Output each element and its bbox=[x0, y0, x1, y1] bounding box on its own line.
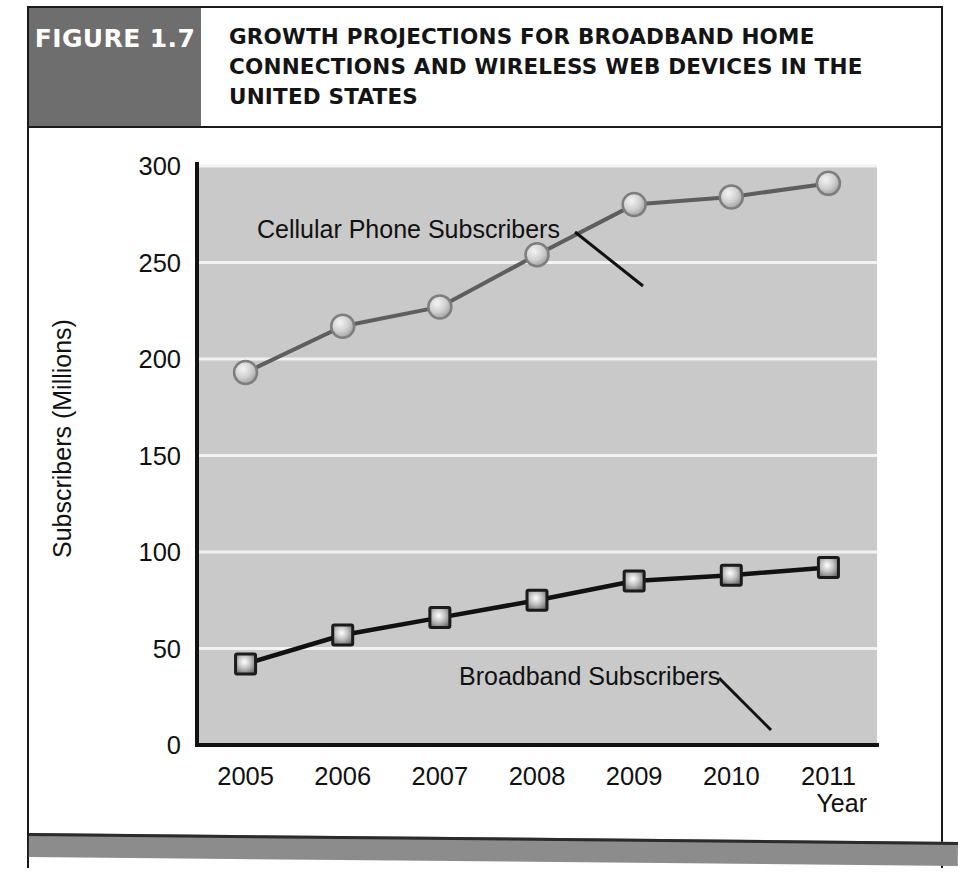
y-tick-label: 250 bbox=[138, 249, 181, 277]
x-axis-ticks: 2005200620072008200920102011 bbox=[217, 762, 856, 790]
x-tick-label: 2008 bbox=[509, 762, 566, 790]
x-axis-title: Year bbox=[816, 789, 867, 817]
data-point-circle bbox=[331, 315, 354, 338]
data-point-circle bbox=[428, 295, 451, 318]
series-annotation-label: Cellular Phone Subscribers bbox=[257, 215, 560, 243]
data-point-circle bbox=[234, 361, 257, 384]
x-tick-label: 2011 bbox=[801, 762, 856, 790]
figure-frame: FIGURE 1.7 GROWTH PROJECTIONS FOR BROADB… bbox=[27, 6, 943, 868]
chart-region: 050100150200250300 200520062007200820092… bbox=[29, 128, 945, 818]
y-tick-label: 300 bbox=[138, 152, 181, 180]
x-tick-label: 2009 bbox=[606, 762, 663, 790]
y-tick-label: 200 bbox=[138, 345, 181, 373]
data-point-circle bbox=[526, 243, 549, 266]
y-axis-ticks: 050100150200250300 bbox=[138, 152, 181, 759]
figure-header: FIGURE 1.7 GROWTH PROJECTIONS FOR BROADB… bbox=[29, 8, 941, 128]
y-axis-title: Subscribers (Millions) bbox=[48, 319, 76, 558]
figure-number-block: FIGURE 1.7 bbox=[29, 8, 201, 126]
x-tick-label: 2005 bbox=[217, 762, 274, 790]
figure-title-block: GROWTH PROJECTIONS FOR BROADBAND HOME CO… bbox=[201, 8, 941, 126]
data-point-circle bbox=[817, 172, 840, 195]
data-point-circle bbox=[720, 185, 743, 208]
data-point-square bbox=[818, 557, 838, 577]
data-point-square bbox=[721, 565, 741, 585]
x-tick-label: 2010 bbox=[703, 762, 760, 790]
data-point-square bbox=[236, 654, 256, 674]
figure-number-label: FIGURE 1.7 bbox=[35, 24, 196, 53]
data-point-square bbox=[527, 590, 547, 610]
x-tick-label: 2007 bbox=[411, 762, 468, 790]
y-tick-label: 150 bbox=[138, 442, 181, 470]
figure-title: GROWTH PROJECTIONS FOR BROADBAND HOME CO… bbox=[229, 22, 869, 112]
data-point-square bbox=[430, 608, 450, 628]
data-point-square bbox=[624, 571, 644, 591]
x-tick-label: 2006 bbox=[314, 762, 371, 790]
line-chart: 050100150200250300 200520062007200820092… bbox=[29, 128, 945, 818]
y-tick-label: 100 bbox=[138, 538, 181, 566]
data-point-circle bbox=[623, 193, 646, 216]
data-point-square bbox=[333, 625, 353, 645]
series-annotation-label: Broadband Subscribers bbox=[459, 662, 720, 690]
y-tick-label: 0 bbox=[167, 731, 181, 759]
y-tick-label: 50 bbox=[153, 635, 181, 663]
